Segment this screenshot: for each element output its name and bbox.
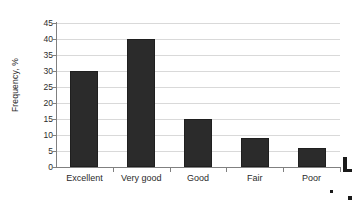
y-axis-tick-mark	[52, 23, 57, 24]
x-axis-tick-mark	[170, 168, 171, 172]
gridline	[56, 71, 340, 72]
plot-area	[56, 23, 340, 167]
y-axis-tick-mark	[52, 135, 57, 136]
x-axis-tick-mark	[226, 168, 227, 172]
y-axis-tick-label: 45	[26, 18, 53, 28]
y-axis-tick-label: 0	[26, 162, 53, 172]
bar	[184, 119, 212, 167]
y-axis-tick-label: 35	[26, 50, 53, 60]
y-axis-tick-mark	[52, 87, 57, 88]
y-axis-tick-label: 30	[26, 66, 53, 76]
bar	[127, 39, 155, 167]
gridline	[56, 103, 340, 104]
y-axis-tick-label: 40	[26, 34, 53, 44]
scan-artifact-dot	[330, 190, 333, 193]
x-axis-line	[56, 167, 341, 168]
gridline	[56, 23, 340, 24]
y-axis-tick-label: 25	[26, 82, 53, 92]
x-axis-tick-mark	[340, 168, 341, 172]
gridline	[56, 39, 340, 40]
bar	[241, 138, 269, 167]
y-axis-tick-mark	[52, 167, 57, 168]
x-axis-tick-mark	[283, 168, 284, 172]
y-axis-tick-label: 20	[26, 98, 53, 108]
bar-chart: Frequency, % 051015202530354045 Excellen…	[0, 0, 353, 206]
y-axis-tick-mark	[52, 103, 57, 104]
y-axis-title-label: Frequency, %	[10, 58, 20, 112]
y-axis-tick-label: 5	[26, 146, 53, 156]
x-axis-tick-label: Excellent	[56, 173, 113, 183]
y-axis-tick-label: 10	[26, 130, 53, 140]
bar	[70, 71, 98, 167]
gridline	[56, 87, 340, 88]
y-axis-tick-mark	[52, 55, 57, 56]
y-axis-tick-labels: 051015202530354045	[26, 23, 53, 167]
y-axis-tick-mark	[52, 71, 57, 72]
bar	[298, 148, 326, 167]
gridline	[56, 55, 340, 56]
x-axis-tick-label: Good	[170, 173, 227, 183]
y-axis-tick-label: 15	[26, 114, 53, 124]
y-axis-tick-mark	[52, 39, 57, 40]
x-axis-tick-label: Poor	[283, 173, 340, 183]
x-axis-tick-mark	[113, 168, 114, 172]
x-axis-tick-labels: ExcellentVery goodGoodFairPoor	[56, 173, 340, 189]
y-axis-tick-mark	[52, 119, 57, 120]
x-axis-tick-label: Fair	[226, 173, 283, 183]
y-axis-tick-mark	[52, 151, 57, 152]
scan-artifact-dot	[348, 196, 352, 200]
x-axis-tick-label: Very good	[113, 173, 170, 183]
scan-artifact-horizontal	[343, 169, 352, 172]
